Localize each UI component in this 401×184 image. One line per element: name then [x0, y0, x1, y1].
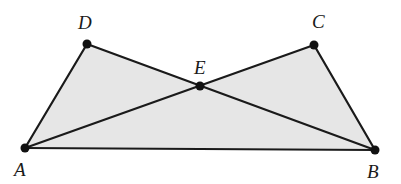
point-A	[21, 144, 30, 153]
geometry-diagram: D C E A B	[0, 0, 401, 184]
point-E	[196, 82, 205, 91]
label-B: B	[367, 161, 379, 182]
point-B	[371, 146, 380, 155]
point-C	[310, 41, 319, 50]
point-D	[83, 40, 92, 49]
label-D: D	[77, 12, 92, 33]
label-C: C	[312, 11, 325, 32]
label-E: E	[193, 57, 206, 78]
label-A: A	[12, 159, 26, 180]
